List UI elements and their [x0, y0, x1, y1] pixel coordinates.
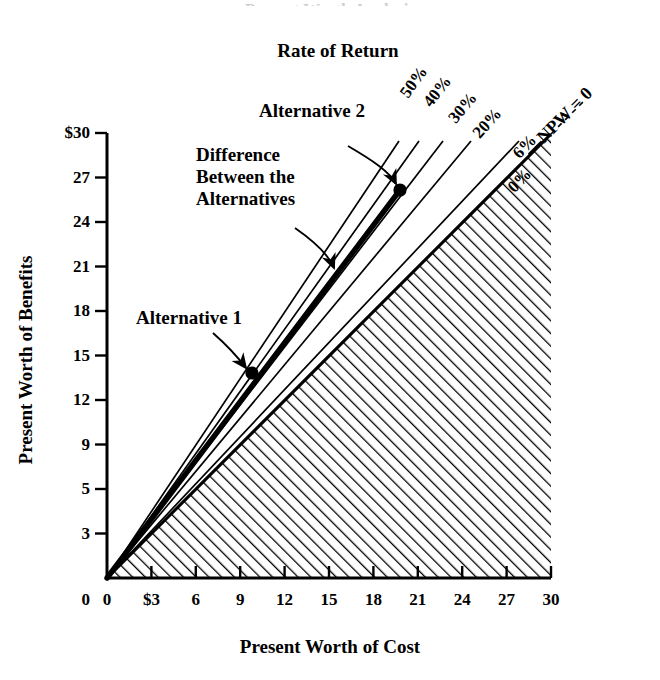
data-point-alternative-1 [245, 366, 258, 379]
x-tick-label-9: 9 [236, 590, 245, 610]
leader-alternative-2 [348, 146, 396, 184]
x-tick-label-27: 27 [498, 590, 515, 610]
y-tick-label-12: 12 [50, 390, 90, 410]
x-tick-label-18: 18 [365, 590, 382, 610]
figure-root: Present Worth Analysis [0, 0, 660, 680]
y-tick-label-27: 27 [50, 168, 90, 188]
annotation-alternative-2: Alternative 2 [259, 100, 365, 122]
x-tick-label-15: 15 [321, 590, 338, 610]
x-tick-label-0: 0 [103, 590, 112, 610]
y-tick-label-3: 3 [50, 524, 90, 544]
x-tick-label-24: 24 [454, 590, 471, 610]
y-axis-ticks [95, 133, 107, 534]
leader-alternative-1 [213, 333, 246, 368]
x-tick-label-12: 12 [276, 590, 293, 610]
annotation-difference-line-3: Alternatives [196, 188, 295, 210]
legend-heading: Rate of Return [277, 40, 398, 62]
y-tick-label-24: 24 [50, 212, 90, 232]
x-tick-label-3: $3 [143, 590, 160, 610]
y-axis-title: Present Worth of Benefits [15, 256, 37, 465]
y-tick-label-30: $30 [50, 123, 90, 143]
x-axis-title: Present Worth of Cost [240, 636, 420, 658]
annotation-difference-line-2: Between the [196, 166, 295, 188]
annotation-alternative-1: Alternative 1 [136, 307, 242, 329]
y-tick-label-15: 15 [50, 346, 90, 366]
y-tick-label-21: 21 [50, 257, 90, 277]
x-tick-label-6: 6 [192, 590, 201, 610]
annotation-difference-line-1: Difference [196, 144, 295, 166]
data-point-alternative-2 [393, 183, 406, 196]
annotation-difference: Difference Between the Alternatives [196, 144, 295, 210]
y-tick-label-6: 5 [50, 479, 90, 499]
x-tick-label-21: 21 [409, 590, 426, 610]
x-tick-label-30: 30 [543, 590, 560, 610]
y-tick-label-0: 0 [50, 590, 90, 610]
y-tick-label-9: 9 [50, 435, 90, 455]
y-tick-label-18: 18 [50, 301, 90, 321]
